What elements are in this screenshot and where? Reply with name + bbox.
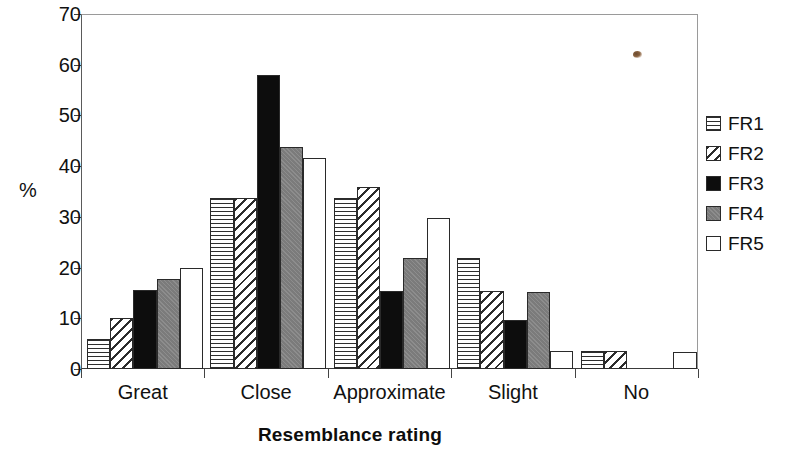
legend-item-fr5: FR5: [706, 228, 786, 258]
legend-swatch-fr5-icon: [706, 236, 721, 251]
x-axis-title: Resemblance rating: [0, 424, 700, 446]
bar-fr2-close: [234, 198, 257, 369]
x-axis-tick-mark: [204, 369, 205, 378]
legend-item-fr4: FR4: [706, 198, 786, 228]
bar-fr1-no: [581, 351, 604, 369]
legend-label: FR3: [728, 174, 764, 193]
y-axis: 010203040506070: [0, 0, 81, 369]
legend-label: FR1: [728, 114, 764, 133]
legend-swatch-fr1-icon: [706, 116, 721, 131]
bar-fr3-approximate: [380, 291, 403, 369]
x-axis-category-label-approximate: Approximate: [320, 381, 460, 403]
legend-item-fr3: FR3: [706, 168, 786, 198]
x-axis-tick-mark: [575, 369, 576, 378]
legend-item-fr1: FR1: [706, 108, 786, 138]
x-axis-tick-mark: [451, 369, 452, 378]
bar-fr5-close: [303, 158, 326, 369]
bar-fr2-no: [604, 351, 627, 369]
bar-fr5-great: [180, 268, 203, 369]
bar-fr1-close: [210, 198, 233, 369]
bar-fr2-great: [110, 318, 133, 369]
y-axis-tick-label: 40: [37, 156, 81, 176]
y-axis-tick-label: 0: [37, 359, 81, 379]
plot-area: [81, 14, 698, 369]
bar-fr5-slight: [550, 351, 573, 369]
bar-chart: 010203040506070 % GreatCloseApproximateS…: [0, 0, 786, 455]
bar-fr3-slight: [504, 320, 527, 369]
legend-swatch-fr4-icon: [706, 206, 721, 221]
x-axis-tick-mark: [328, 369, 329, 378]
y-axis-tick-label: 30: [37, 207, 81, 227]
legend-label: FR2: [728, 144, 764, 163]
bar-fr5-no: [673, 352, 696, 369]
y-axis-label: %: [19, 180, 37, 200]
x-axis-category-label-slight: Slight: [443, 381, 583, 403]
legend: FR1FR2FR3FR4FR5: [706, 108, 786, 258]
x-axis-category-label-close: Close: [196, 381, 336, 403]
bar-fr3-great: [133, 290, 156, 369]
bar-fr1-slight: [457, 258, 480, 369]
bar-fr2-slight: [480, 291, 503, 369]
bar-fr4-slight: [527, 292, 550, 369]
scan-speck-artifact: [633, 51, 642, 58]
x-axis-category-label-no: No: [566, 381, 706, 403]
y-axis-tick-label: 70: [37, 4, 81, 24]
y-axis-tick-label: 20: [37, 258, 81, 278]
legend-label: FR5: [728, 234, 764, 253]
bar-fr4-close: [280, 147, 303, 369]
x-axis-tick-mark: [698, 369, 699, 378]
bar-fr4-approximate: [403, 258, 426, 369]
y-axis-tick-label: 60: [37, 55, 81, 75]
x-axis-tick-mark: [81, 369, 82, 378]
bar-fr3-close: [257, 75, 280, 369]
bar-fr1-great: [87, 339, 110, 369]
bar-fr5-approximate: [427, 218, 450, 369]
y-axis-tick-label: 50: [37, 105, 81, 125]
bar-fr1-approximate: [334, 198, 357, 369]
y-axis-tick-label: 10: [37, 308, 81, 328]
legend-label: FR4: [728, 204, 764, 223]
legend-swatch-fr3-icon: [706, 176, 721, 191]
bar-fr4-great: [157, 279, 180, 369]
legend-swatch-fr2-icon: [706, 146, 721, 161]
x-axis-category-label-great: Great: [73, 381, 213, 403]
bar-fr2-approximate: [357, 187, 380, 369]
legend-item-fr2: FR2: [706, 138, 786, 168]
